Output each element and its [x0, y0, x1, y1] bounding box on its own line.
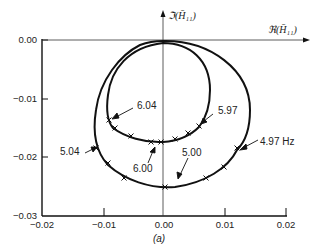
- figure-caption: (a): [153, 233, 165, 244]
- annotation-6-00: 6.00: [133, 163, 153, 174]
- y-tick-label: −0.01: [13, 93, 37, 104]
- x-tick-label: −0.02: [30, 219, 54, 230]
- y-tick-label: 0.00: [19, 34, 38, 45]
- nyquist-plot: 0.00 −0.01 −0.02 −0.03 −0.02 −0.01 0.00 …: [0, 0, 319, 252]
- imag-axis-label: ℑ(H̄₁₁): [168, 10, 197, 22]
- annotation-4-97-hz: 4.97 Hz: [260, 136, 294, 147]
- annotation-5-97: 5.97: [218, 105, 238, 116]
- imag-axis-arrow-icon: [161, 10, 166, 17]
- x-tick-label: 0.01: [216, 219, 235, 230]
- x-tick-label: 0.00: [155, 219, 174, 230]
- outer-loop-markers: [94, 146, 240, 190]
- inner-loop-markers: [107, 118, 202, 145]
- x-tick-label: 0.02: [277, 219, 296, 230]
- annotation-5-00: 5.00: [182, 147, 202, 158]
- real-axis-arrow-icon: [303, 38, 310, 43]
- real-axis-label: ℜ(H̄₁₁): [268, 24, 298, 36]
- x-tick-label: −0.01: [92, 219, 116, 230]
- plot-frame: [42, 39, 287, 216]
- x-ticks: [104, 208, 286, 216]
- y-tick-label: −0.02: [13, 151, 37, 162]
- y-ticks: [42, 40, 48, 157]
- annotation-5-04: 5.04: [60, 146, 80, 157]
- annotation-6-04: 6.04: [137, 100, 157, 111]
